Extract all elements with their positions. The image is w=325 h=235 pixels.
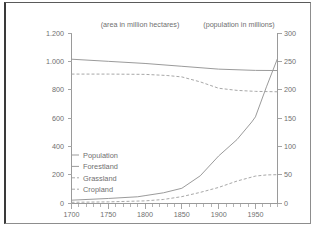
right-tick-label: 50 xyxy=(284,170,292,179)
x-tick-label: 1700 xyxy=(64,210,80,219)
right-tick-label: 300 xyxy=(284,29,296,38)
right-tick-label: 0 xyxy=(284,199,288,208)
right-tick-label: 100 xyxy=(284,142,296,151)
left-tick-label: 1.000 xyxy=(46,57,64,66)
right-axis-ticks: 050100150200250300 xyxy=(278,29,297,208)
x-tick-label: 1750 xyxy=(100,210,116,219)
left-tick-label: 800 xyxy=(52,85,64,94)
right-tick-label: 250 xyxy=(284,57,296,66)
left-axis-ticks: 02004006008001.0001.200 xyxy=(46,29,72,208)
right-tick-label: 150 xyxy=(284,114,296,123)
left-tick-label: 1.200 xyxy=(46,29,64,38)
legend-label-grassland: Grassland xyxy=(83,174,117,183)
left-tick-label: 400 xyxy=(52,142,64,151)
x-tick-label: 1950 xyxy=(247,210,263,219)
chart-canvas: (area in million hectares) (population i… xyxy=(0,0,325,235)
x-tick-label: 1850 xyxy=(174,210,190,219)
x-axis-ticks: 170017501800185019001950 xyxy=(64,204,278,220)
right-axis-caption: (population in millions) xyxy=(203,20,275,29)
series-line-forestland xyxy=(72,59,278,70)
series-line-grassland xyxy=(72,74,278,92)
left-tick-label: 0 xyxy=(60,199,64,208)
legend-label-forestland: Forestland xyxy=(83,162,118,171)
left-axis-caption: (area in million hectares) xyxy=(101,20,180,29)
figure-root: (area in million hectares) (population i… xyxy=(0,0,325,235)
x-tick-label: 1800 xyxy=(137,210,153,219)
line-chart: (area in million hectares) (population i… xyxy=(0,0,325,235)
left-tick-label: 200 xyxy=(52,170,64,179)
left-tick-label: 600 xyxy=(52,114,64,123)
right-tick-label: 200 xyxy=(284,85,296,94)
legend-label-population: Population xyxy=(83,151,118,160)
chart-legend: PopulationForestlandGrasslandCropland xyxy=(72,151,118,194)
x-tick-label: 1900 xyxy=(211,210,227,219)
legend-label-cropland: Cropland xyxy=(83,185,113,194)
